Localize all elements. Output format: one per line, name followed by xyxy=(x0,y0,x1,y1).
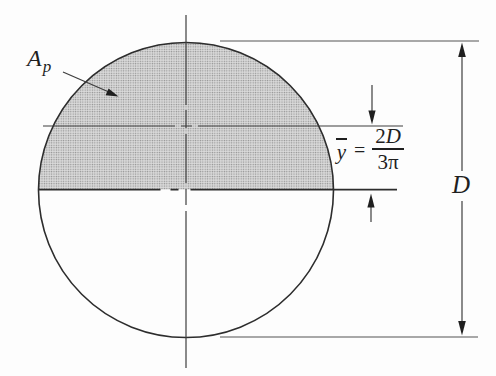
equals-sign: = xyxy=(354,140,365,160)
fraction-numerator: 2D xyxy=(372,126,404,148)
ybar-symbol: y xyxy=(336,138,347,163)
area-subscript: p xyxy=(43,57,52,76)
dimension-arrow-up-icon xyxy=(458,43,466,58)
ybar-arrow-down xyxy=(368,85,375,125)
dimension-arrow-down-icon xyxy=(458,321,466,336)
arrow-up-icon xyxy=(367,194,374,208)
area-symbol: A xyxy=(27,45,42,71)
centroid-equation: y = 2D 3π xyxy=(336,126,404,174)
area-label: Ap xyxy=(27,46,51,75)
ybar-arrow-up xyxy=(367,194,374,223)
diagram-canvas xyxy=(0,0,496,376)
fraction: 2D 3π xyxy=(372,126,404,174)
centroid-diagram: Ap y = 2D 3π D xyxy=(0,0,496,376)
arrow-down-icon xyxy=(368,111,375,125)
diameter-label: D xyxy=(452,172,470,197)
fraction-denominator: 3π xyxy=(375,150,402,174)
